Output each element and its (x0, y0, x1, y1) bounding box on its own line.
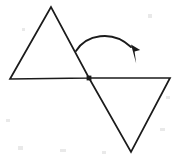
noise-speck (160, 128, 165, 131)
noise-speck (22, 28, 25, 31)
rotation-diagram-svg (0, 0, 177, 161)
diagram-background (0, 0, 177, 161)
noise-speck (60, 149, 66, 152)
noise-speck (6, 119, 10, 122)
rotation-diagram-canvas: Two congruent triangles joined at a comm… (0, 0, 177, 161)
noise-speck (102, 151, 106, 154)
pivot-point-dot (87, 76, 92, 81)
noise-speck (148, 14, 152, 18)
noise-speck (166, 96, 170, 99)
noise-speck (18, 146, 23, 150)
